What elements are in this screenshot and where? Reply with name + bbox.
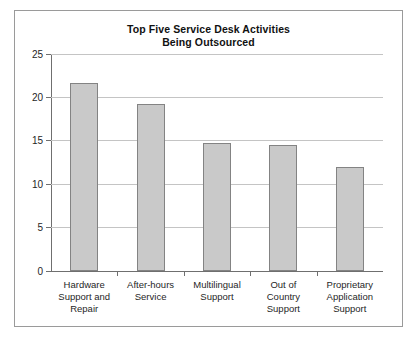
gridline-25 xyxy=(51,54,383,55)
y-tick-10 xyxy=(46,184,51,185)
chart-figure: Top Five Service Desk Activities Being O… xyxy=(14,10,403,327)
bar xyxy=(70,83,98,270)
x-axis-label: ProprietaryApplicationSupport xyxy=(317,279,383,315)
y-tick-15 xyxy=(46,140,51,141)
y-tick-label-10: 10 xyxy=(32,178,43,189)
y-tick-0 xyxy=(46,271,51,272)
chart-title: Top Five Service Desk Activities Being O… xyxy=(15,23,402,49)
category-separator-tick xyxy=(117,271,118,276)
x-axis-label-line: After-hours xyxy=(117,279,183,291)
y-axis-line xyxy=(51,54,52,271)
x-axis-label-line: Country xyxy=(250,291,316,303)
y-tick-label-25: 25 xyxy=(32,48,43,59)
x-axis-label-line: Application xyxy=(317,291,383,303)
y-tick-25 xyxy=(46,54,51,55)
category-separator-tick xyxy=(250,271,251,276)
bar xyxy=(137,104,165,271)
x-axis-label-line: Support xyxy=(184,291,250,303)
plot-area: 0510152025 HardwareSupport andRepairAfte… xyxy=(51,54,383,271)
x-axis-label-line: Hardware xyxy=(51,279,117,291)
chart-title-line-1: Top Five Service Desk Activities xyxy=(15,23,402,36)
x-axis-label-line: Repair xyxy=(51,303,117,315)
y-tick-label-5: 5 xyxy=(37,222,43,233)
x-axis-label-line: Support and xyxy=(51,291,117,303)
y-tick-20 xyxy=(46,97,51,98)
gridline-0 xyxy=(51,271,383,272)
bar xyxy=(269,145,297,271)
y-tick-label-0: 0 xyxy=(37,265,43,276)
x-axis-label-line: Support xyxy=(250,303,316,315)
x-axis-label: MultilingualSupport xyxy=(184,279,250,303)
gridline-20 xyxy=(51,97,383,98)
x-axis-label-line: Out of xyxy=(250,279,316,291)
y-tick-5 xyxy=(46,227,51,228)
x-axis-label: After-hoursService xyxy=(117,279,183,303)
y-tick-label-15: 15 xyxy=(32,135,43,146)
x-axis-label-line: Proprietary xyxy=(317,279,383,291)
x-axis-label-line: Service xyxy=(117,291,183,303)
category-separator-tick xyxy=(317,271,318,276)
category-separator-tick xyxy=(184,271,185,276)
x-axis-label-line: Multilingual xyxy=(184,279,250,291)
bar xyxy=(203,143,231,271)
bar xyxy=(336,167,364,271)
chart-title-line-2: Being Outsourced xyxy=(15,36,402,49)
x-axis-label: HardwareSupport andRepair xyxy=(51,279,117,315)
y-tick-label-20: 20 xyxy=(32,92,43,103)
x-axis-label: Out ofCountrySupport xyxy=(250,279,316,315)
gridline-15 xyxy=(51,140,383,141)
x-axis-label-line: Support xyxy=(317,303,383,315)
